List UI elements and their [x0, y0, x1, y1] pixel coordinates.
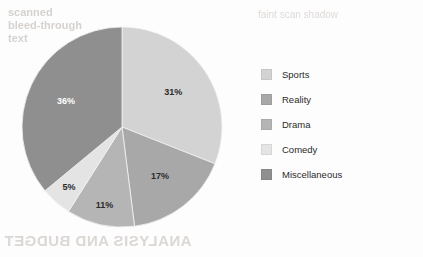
legend-item-label: Sports: [282, 69, 309, 80]
pie-slice-value-label: 5%: [63, 182, 76, 192]
legend-swatch-icon: [261, 94, 272, 105]
pie-chart-figure: scanned bleed-through text faint scan sh…: [0, 0, 423, 257]
legend-item-sports[interactable]: Sports: [261, 62, 411, 87]
legend-swatch-icon: [261, 144, 272, 155]
chart-legend: Sports Reality Drama Comedy Miscellaneou…: [261, 62, 411, 187]
legend-swatch-icon: [261, 119, 272, 130]
pie-chart: 31%17%11%5%36%: [19, 24, 225, 230]
pie-slice-value-label: 17%: [151, 171, 169, 181]
legend-item-reality[interactable]: Reality: [261, 87, 411, 112]
pie-slice-value-label: 31%: [164, 87, 182, 97]
scan-bleedthrough-text-bottom: ANALYSIS AND BUDGET: [4, 232, 192, 249]
legend-item-label: Miscellaneous: [282, 169, 342, 180]
legend-swatch-icon: [261, 69, 272, 80]
pie-chart-svg: 31%17%11%5%36%: [19, 24, 225, 230]
legend-item-label: Reality: [282, 94, 311, 105]
legend-item-label: Drama: [282, 119, 311, 130]
legend-item-miscellaneous[interactable]: Miscellaneous: [261, 162, 411, 187]
legend-item-label: Comedy: [282, 144, 317, 155]
pie-slice-group: [22, 27, 222, 227]
pie-slice-value-label: 36%: [57, 96, 75, 106]
legend-item-comedy[interactable]: Comedy: [261, 137, 411, 162]
legend-swatch-icon: [261, 169, 272, 180]
pie-slice-value-label: 11%: [96, 200, 114, 210]
legend-item-drama[interactable]: Drama: [261, 112, 411, 137]
scan-ghost-text-top-right: faint scan shadow: [258, 8, 338, 21]
